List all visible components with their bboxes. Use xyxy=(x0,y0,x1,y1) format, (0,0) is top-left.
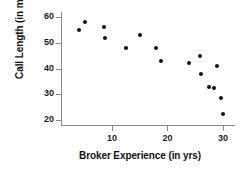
x-tick-mark xyxy=(223,126,224,131)
x-tick-label: 20 xyxy=(155,133,179,143)
data-point xyxy=(138,33,142,37)
x-axis-title: Broker Experience (in yrs) xyxy=(40,150,240,161)
x-tick-mark xyxy=(112,126,113,131)
y-tick-label: 20 xyxy=(30,115,54,124)
data-point xyxy=(207,85,211,89)
data-point xyxy=(77,28,81,32)
y-tick-label: 40 xyxy=(30,64,54,73)
data-point xyxy=(221,112,225,116)
y-tick-mark xyxy=(56,94,61,95)
y-tick-mark xyxy=(56,69,61,70)
data-point xyxy=(199,72,203,76)
x-tick-label: 30 xyxy=(211,133,235,143)
y-tick-label: 30 xyxy=(30,89,54,98)
y-axis-title: Call Length (in mins) xyxy=(14,0,25,89)
x-tick-mark xyxy=(167,126,168,131)
y-tick-label: 60 xyxy=(30,12,54,21)
scatter-plot-figure: 2030405060 102030 Call Length (in mins) … xyxy=(0,0,248,186)
data-point xyxy=(219,96,223,100)
plot-data-area xyxy=(62,12,234,125)
data-point xyxy=(187,61,191,65)
data-point xyxy=(198,54,202,58)
x-tick-label: 10 xyxy=(100,133,124,143)
y-tick-mark xyxy=(56,120,61,121)
y-tick-mark xyxy=(56,43,61,44)
y-tick-mark xyxy=(56,17,61,18)
data-point xyxy=(159,59,163,63)
x-axis-line xyxy=(61,125,235,126)
data-point xyxy=(124,46,128,50)
y-tick-label: 50 xyxy=(30,38,54,47)
